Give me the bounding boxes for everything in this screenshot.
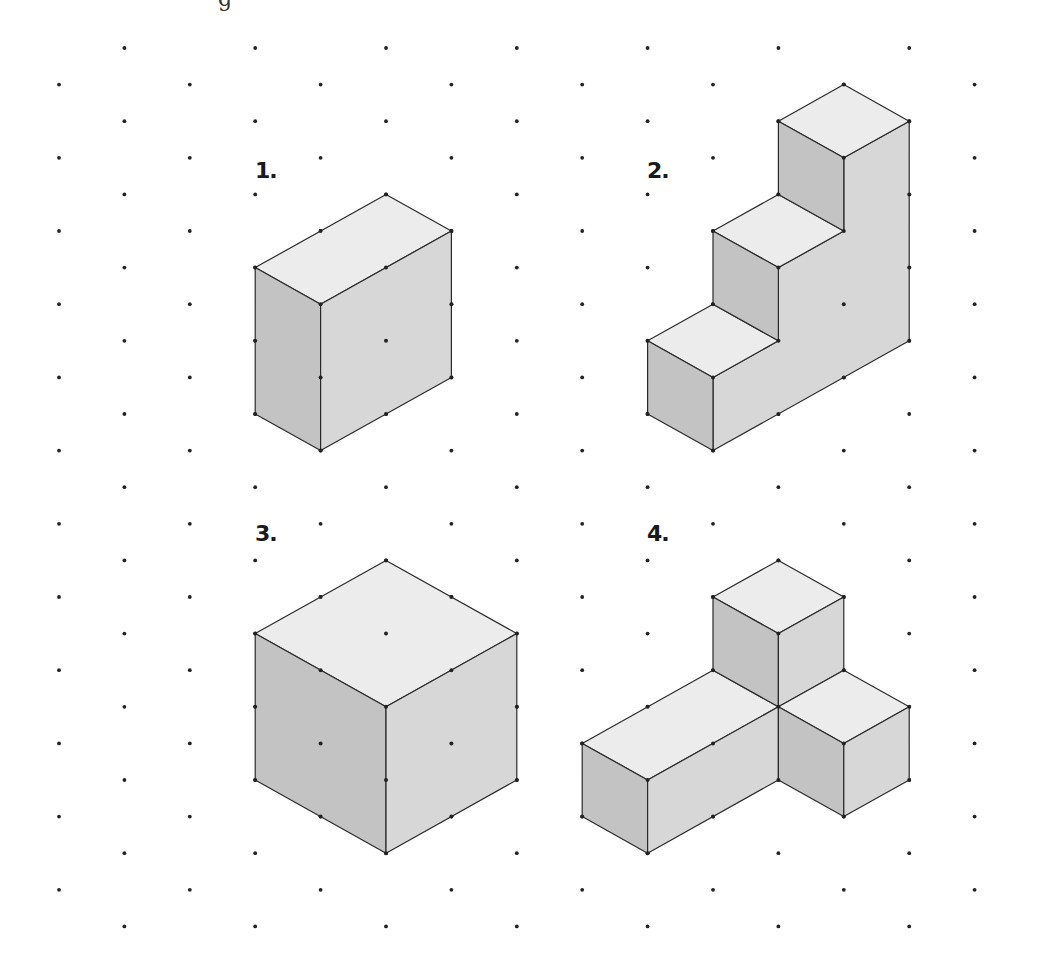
vertex-dot — [449, 302, 453, 306]
figure-label-3: 3. — [255, 521, 277, 546]
vertex-dot — [907, 339, 911, 343]
grid-dot — [973, 522, 977, 526]
grid-dot — [57, 376, 61, 380]
grid-dot — [515, 412, 519, 416]
isometric-dot-grid-diagram: g 1. 2. 3. 4. — [0, 0, 1040, 960]
vertex-dot — [319, 741, 323, 745]
grid-dot — [319, 83, 323, 87]
vertex-dot — [253, 632, 257, 636]
vertex-dot — [449, 229, 453, 233]
vertex-dot — [253, 778, 257, 782]
grid-dot — [450, 522, 454, 526]
grid-dot — [57, 595, 61, 599]
vertex-dot — [907, 119, 911, 123]
vertex-dot — [776, 266, 780, 270]
vertex-dot — [711, 229, 715, 233]
grid-dot — [319, 888, 323, 892]
vertex-dot — [711, 449, 715, 453]
grid-dot — [57, 815, 61, 819]
grid-dot — [580, 888, 584, 892]
grid-dot — [646, 632, 650, 636]
vertex-dot — [319, 375, 323, 379]
grid-dot — [57, 156, 61, 160]
grid-dot — [188, 815, 192, 819]
grid-dot — [123, 412, 127, 416]
grid-dot — [253, 851, 257, 855]
grid-dot — [842, 888, 846, 892]
grid-dot — [123, 193, 127, 197]
vertex-dot — [776, 705, 780, 709]
vertex-dot — [842, 668, 846, 672]
grid-dot — [253, 485, 257, 489]
grid-dot — [973, 229, 977, 233]
grid-dot — [777, 485, 781, 489]
vertex-dot — [842, 741, 846, 745]
grid-dot — [515, 46, 519, 50]
vertex-dot — [515, 778, 519, 782]
grid-dot — [450, 888, 454, 892]
grid-dot — [57, 668, 61, 672]
grid-dot — [188, 376, 192, 380]
grid-dot — [123, 925, 127, 929]
vertex-dot — [384, 705, 388, 709]
vertex-dot — [776, 778, 780, 782]
vertex-dot — [319, 668, 323, 672]
grid-dot — [188, 522, 192, 526]
grid-dot — [777, 851, 781, 855]
grid-dot — [253, 119, 257, 123]
grid-dot — [580, 302, 584, 306]
grid-dot — [253, 46, 257, 50]
vertex-dot — [776, 632, 780, 636]
vertex-dot — [842, 815, 846, 819]
grid-dot — [123, 632, 127, 636]
grid-dot — [57, 449, 61, 453]
figure-1-box — [255, 194, 451, 450]
grid-dot — [646, 559, 650, 563]
grid-dot — [384, 46, 388, 50]
grid-dot — [188, 668, 192, 672]
grid-dot — [188, 229, 192, 233]
grid-dot — [907, 851, 911, 855]
grid-dot — [384, 925, 388, 929]
grid-dot — [580, 156, 584, 160]
vertex-dot — [842, 156, 846, 160]
vertex-dot — [711, 595, 715, 599]
vertex-dot — [449, 815, 453, 819]
grid-dot — [123, 851, 127, 855]
grid-dot — [123, 485, 127, 489]
grid-dot — [123, 119, 127, 123]
grid-dot — [450, 156, 454, 160]
vertex-dot — [907, 266, 911, 270]
grid-dot — [188, 156, 192, 160]
vertex-dot — [515, 705, 519, 709]
vertex-dot — [646, 705, 650, 709]
grid-dot — [123, 46, 127, 50]
grid-dot — [973, 376, 977, 380]
vertex-dot — [384, 778, 388, 782]
vertex-dot — [253, 266, 257, 270]
grid-dot — [123, 339, 127, 343]
figure-label-2: 2. — [647, 158, 669, 183]
grid-dot — [973, 83, 977, 87]
vertex-dot — [646, 778, 650, 782]
vertex-dot — [319, 815, 323, 819]
grid-dot — [580, 522, 584, 526]
vertex-dot — [711, 302, 715, 306]
grid-dot — [515, 339, 519, 343]
grid-dot — [711, 83, 715, 87]
grid-dot — [253, 559, 257, 563]
grid-dot — [580, 668, 584, 672]
grid-dot — [646, 485, 650, 489]
grid-dot — [450, 449, 454, 453]
vertex-dot — [776, 558, 780, 562]
grid-dot — [580, 376, 584, 380]
grid-dot — [515, 925, 519, 929]
vertex-dot — [711, 741, 715, 745]
vertex-dot — [776, 412, 780, 416]
grid-dot — [57, 742, 61, 746]
grid-dot — [711, 888, 715, 892]
grid-dot — [973, 815, 977, 819]
grid-dot — [515, 119, 519, 123]
grid-dot — [973, 888, 977, 892]
grid-dot — [188, 83, 192, 87]
